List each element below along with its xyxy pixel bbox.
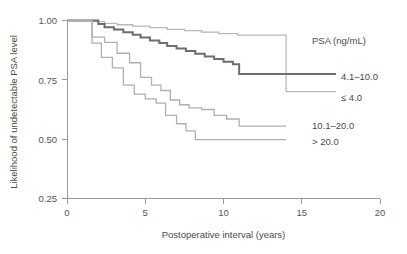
curve-4.1-10.0 — [67, 21, 286, 74]
x-tick-label-0: 0 — [64, 207, 69, 218]
legend-title: PSA (ng/mL) — [312, 35, 366, 46]
y-tick-label-4: 0.25 — [39, 193, 58, 204]
legend-label-4.1-10.0: 4.1–10.0 — [341, 71, 378, 82]
legend-label-10.1-20.0: 10.1–20.0 — [312, 120, 354, 131]
curve--4.0 — [67, 21, 286, 92]
chart-canvas: Likelihood of undetectable PSA level 1.0… — [0, 0, 407, 254]
legend-leader-group — [286, 74, 336, 92]
y-tick-label-2: 0.75 — [39, 75, 58, 86]
y-tick-marks — [62, 21, 68, 199]
y-axis-title: Likelihood of undetectable PSA level — [8, 35, 19, 189]
x-axis-title: Postoperative interval (years) — [162, 229, 286, 240]
y-tick-label-3: 0.50 — [39, 134, 58, 145]
y-tick-label-1: 1.00 — [39, 15, 58, 26]
legend-label-gt-20.0: > 20.0 — [312, 136, 339, 147]
legend-label-le-4.0: ≤ 4.0 — [341, 92, 362, 103]
curve-group — [67, 21, 286, 140]
x-tick-label-20: 20 — [375, 207, 386, 218]
x-tick-label-10: 10 — [218, 207, 229, 218]
x-tick-marks — [67, 199, 380, 205]
kaplan-meier-chart: Likelihood of undetectable PSA level 1.0… — [0, 0, 407, 254]
x-tick-label-5: 5 — [143, 207, 148, 218]
x-tick-label-15: 15 — [297, 207, 308, 218]
curve--20.0 — [67, 21, 286, 140]
